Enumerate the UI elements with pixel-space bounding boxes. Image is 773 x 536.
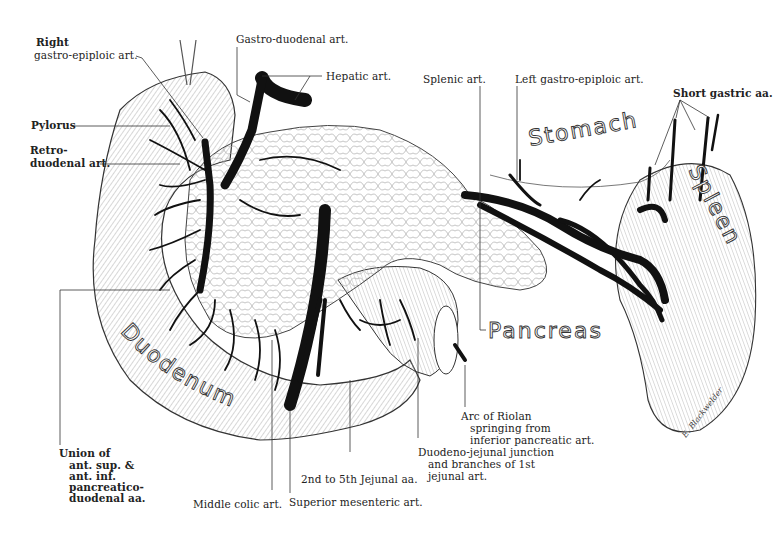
organ-label-pancreas: Pancreas [488,318,603,343]
label-union-line1: Union of [59,447,110,459]
label-right-gastro-epiploic-line1: Right [36,36,69,48]
label-jejunal-aa: 2nd to 5th Jejunal aa. [301,473,418,485]
label-short-gastric-aa: Short gastric aa. [673,87,773,99]
label-splenic-art: Splenic art. [423,73,486,85]
label-duodeno-jejunal-line2: and branches of 1st [428,458,535,470]
label-retro-duodenal-line2: duodenal art. [30,157,110,169]
organ-label-stomach: Stomach [527,107,641,151]
label-superior-mesenteric-art: Superior mesenteric art. [289,496,423,508]
label-union-line5: duodenal aa. [69,492,146,504]
label-pylorus: Pylorus [31,119,76,131]
label-arc-of-riolan-line1: Arc of Riolan [461,410,532,422]
label-middle-colic-art: Middle colic art. [193,498,282,510]
label-arc-of-riolan-line2: springing from [470,422,551,434]
label-hepatic-art: Hepatic art. [326,70,391,82]
label-left-gastro-epiploic-art: Left gastro-epiploic art. [515,73,644,85]
spleen [616,164,756,432]
label-arc-of-riolan-line3: inferior pancreatic art. [470,434,594,446]
label-right-gastro-epiploic-line2: gastro-epiploic art. [34,49,138,61]
label-retro-duodenal-line1: Retro- [30,144,68,156]
label-duodeno-jejunal-line1: Duodeno-jejunal junction [418,446,554,458]
label-gastro-duodenal-art: Gastro-duodenal art. [236,33,348,45]
label-duodeno-jejunal-line3: jejunal art. [428,470,487,482]
